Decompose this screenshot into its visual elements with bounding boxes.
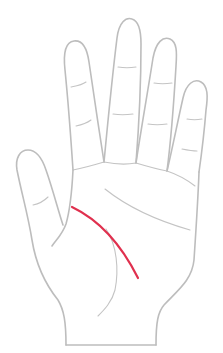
ring-crease-lower [148, 124, 167, 125]
finger-creases [33, 67, 202, 205]
palm-lines [98, 189, 190, 316]
index-finger [64, 41, 104, 170]
middle-crease-upper [118, 67, 136, 68]
little-finger [167, 81, 207, 172]
hand-illustration [0, 0, 223, 353]
life-line-highlight [72, 207, 138, 278]
palm-right-edge [156, 172, 199, 345]
ring-crease-upper [154, 83, 172, 84]
index-crease-upper [71, 82, 86, 87]
index-crease-lower [76, 120, 91, 126]
little-crease-lower [182, 149, 197, 151]
thumb-crease [33, 197, 48, 205]
heart-line [105, 189, 190, 230]
ring-finger [136, 38, 176, 171]
hand-outline [17, 19, 208, 345]
middle-finger [104, 19, 141, 163]
palm-left-edge [17, 150, 66, 345]
thumb [52, 170, 73, 246]
finger-base-crease [73, 162, 195, 186]
middle-crease-lower [113, 114, 133, 115]
palm-diagram: Palm of hand Life line [0, 0, 223, 353]
little-crease-upper [187, 119, 202, 120]
